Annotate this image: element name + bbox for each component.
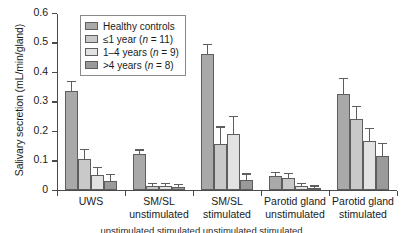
bar (201, 54, 214, 190)
error-bar-cap (80, 149, 89, 150)
error-bar (207, 45, 208, 54)
legend-label: >4 years (n = 8) (103, 60, 174, 71)
y-tick-label: 0.2 (33, 124, 48, 136)
bar (337, 94, 350, 190)
error-bar-cap (203, 44, 212, 45)
error-bar (314, 187, 315, 188)
y-tick-label: 0.3 (33, 94, 48, 106)
error-bar (301, 184, 302, 186)
legend-label: Healthy controls (103, 21, 175, 32)
y-tick-label: 0 (42, 183, 48, 195)
bar-group (329, 14, 397, 190)
y-tick-label: 0.4 (33, 65, 48, 77)
legend-entry: ≤1 year (n = 11) (85, 33, 179, 45)
error-bar (97, 168, 98, 174)
error-bar-cap (242, 173, 251, 174)
salivary-secretion-bar-chart: Salivary secretion (mL/min/gland) 00.10.… (0, 0, 403, 233)
error-bar (288, 174, 289, 178)
error-bar-cap (284, 173, 293, 174)
bar-group (261, 14, 329, 190)
bar (350, 119, 363, 190)
error-bar (356, 107, 357, 119)
y-tick-label: 0.5 (33, 35, 48, 47)
error-bar (110, 175, 111, 181)
error-bar-cap (365, 128, 374, 129)
y-tick-label: 0.1 (33, 153, 48, 165)
bar (227, 134, 240, 190)
bar (65, 91, 78, 190)
y-tick-label: 0.6 (33, 6, 48, 18)
error-bar (343, 79, 344, 94)
error-bar-cap (174, 184, 183, 185)
legend-label: 1–4 years (n = 9) (103, 47, 179, 58)
error-bar (220, 128, 221, 144)
bar (308, 188, 321, 190)
bar (214, 144, 227, 190)
error-bar (84, 150, 85, 158)
legend-label: ≤1 year (n = 11) (103, 34, 173, 45)
bar (78, 159, 91, 190)
error-bar (178, 185, 179, 186)
error-bar (275, 173, 276, 177)
error-bar-cap (148, 183, 157, 184)
error-bar-cap (378, 143, 387, 144)
bar (240, 180, 253, 190)
error-bar (233, 117, 234, 133)
error-bar-cap (339, 78, 348, 79)
error-bar-cap (310, 185, 319, 186)
error-bar-cap (229, 116, 238, 117)
chart-legend: Healthy controls≤1 year (n = 11)1–4 year… (80, 15, 186, 76)
bar (159, 186, 172, 190)
error-bar (382, 144, 383, 155)
error-bar-cap (93, 167, 102, 168)
error-bar (165, 184, 166, 186)
error-bar (152, 184, 153, 186)
y-axis-title: Salivary secretion (mL/min/gland) (13, 5, 25, 195)
legend-swatch (85, 61, 98, 69)
bar (91, 175, 104, 190)
x-axis-label-line: Parotid gland (321, 195, 403, 208)
bar (376, 156, 389, 190)
bar (363, 141, 376, 190)
error-bar-cap (271, 172, 280, 173)
error-bar-cap (161, 183, 170, 184)
bar (104, 181, 117, 190)
error-bar-cap (216, 126, 225, 127)
x-axis-line (57, 190, 397, 191)
error-bar-cap (106, 174, 115, 175)
bar (146, 186, 159, 190)
x-axis-label: Parotid glandstimulated (321, 195, 403, 220)
legend-swatch (85, 48, 98, 56)
bar (133, 154, 146, 189)
legend-swatch (85, 22, 98, 30)
error-bar-cap (135, 149, 144, 150)
legend-entry: Healthy controls (85, 20, 179, 32)
legend-entry: 1–4 years (n = 9) (85, 46, 179, 58)
bar (269, 176, 282, 189)
legend-entry: >4 years (n = 8) (85, 59, 179, 71)
error-bar (246, 175, 247, 180)
legend-swatch (85, 35, 98, 43)
bar (282, 178, 295, 190)
error-bar (71, 82, 72, 91)
error-bar-cap (67, 81, 76, 82)
error-bar (139, 151, 140, 155)
x-axis-labels: UWSSM/SLunstimulatedSM/SLstimulatedParot… (57, 195, 397, 225)
error-bar (369, 129, 370, 141)
error-bar-cap (297, 183, 306, 184)
bar (295, 186, 308, 190)
bar-group (193, 14, 261, 190)
figure-caption-sliver: unstimulated stimulated unstimulated sti… (0, 225, 403, 233)
bar (172, 187, 185, 190)
x-axis-label-line: stimulated (321, 208, 403, 221)
error-bar-cap (352, 106, 361, 107)
